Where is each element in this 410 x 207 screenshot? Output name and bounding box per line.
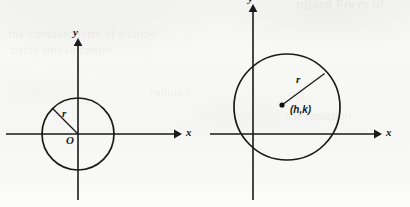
diagram-circle-at-origin	[6, 38, 182, 200]
left-y-axis-arrowhead	[74, 38, 83, 46]
right-y-axis-arrowhead	[249, 4, 258, 12]
left-origin-label: O	[66, 134, 74, 146]
right-center-point-dot	[279, 102, 284, 107]
right-circle	[234, 54, 340, 160]
left-radius-label: r	[62, 107, 66, 119]
right-center-point-label: (h,k)	[290, 104, 311, 115]
left-x-axis-label: x	[186, 126, 192, 138]
diagram-circle-at-hk	[210, 4, 382, 200]
diagram-page: ndard Form ofthe standard form of a circ…	[0, 0, 410, 207]
circle-diagrams-svg	[0, 0, 410, 207]
left-x-axis-arrowhead	[174, 130, 182, 139]
right-y-axis-label: y	[248, 0, 253, 4]
left-y-axis-label: y	[73, 26, 78, 38]
right-radius-segment	[282, 73, 325, 105]
right-x-axis-arrowhead	[374, 130, 382, 139]
right-radius-label: r	[296, 73, 300, 85]
right-x-axis-label: x	[386, 126, 392, 138]
